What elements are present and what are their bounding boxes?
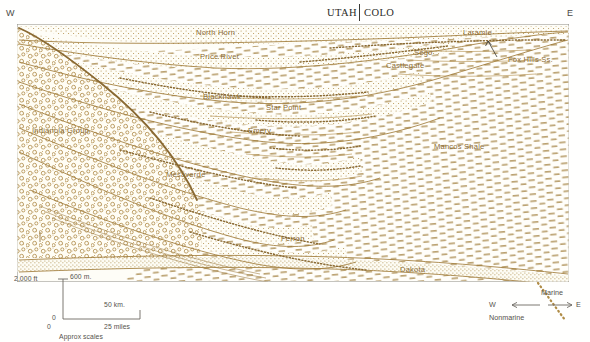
formation-label-mancos-shale: Mancos Shale (434, 142, 485, 151)
legend-west-label: W (489, 300, 496, 309)
formation-label-mesaverde: Mesaverde (166, 170, 205, 179)
scale-vertical-feet: 2,000 ft (14, 275, 37, 282)
formation-label-castlegate: Castlegate (386, 61, 424, 70)
legend-east-label: E (576, 300, 581, 309)
scale-horizontal-km: 50 km. (104, 301, 125, 308)
formation-label-ferron: Ferron (281, 234, 305, 243)
formation-label-dakota: Dakota (400, 265, 425, 274)
formation-label-emery: Emery (248, 126, 271, 135)
legend-marine-label: Marine (541, 288, 563, 297)
formation-label-indianola-group: Indianola Group (32, 126, 89, 135)
scale-horizontal-miles: 25 miles (104, 323, 130, 330)
formation-label-star-point: Star Point (266, 103, 301, 112)
scale-horizontal-zero: 0 (47, 323, 51, 330)
formation-label-laramie: Laramie (463, 28, 492, 37)
formation-label-blackhawk: Blackhawk (203, 92, 241, 101)
cross-section-figure: W E UTAH COLO (0, 0, 590, 342)
formation-label-price-river: Price River (200, 52, 239, 61)
section-drawing (0, 0, 590, 342)
formation-label-sego: Sego (414, 48, 433, 57)
legend-nonmarine-label: Nonmarine (489, 313, 524, 322)
scale-vertical-meters: 600 m. (70, 273, 91, 280)
scale-caption: Approx scales (59, 333, 103, 340)
scale-vertical-zero: 0 (52, 314, 56, 321)
formation-label-fox-hills-ss: Fox Hills Ss. (508, 55, 553, 64)
scale-bar-lines (58, 279, 140, 319)
formation-label-north-horn: North Horn (196, 28, 235, 37)
